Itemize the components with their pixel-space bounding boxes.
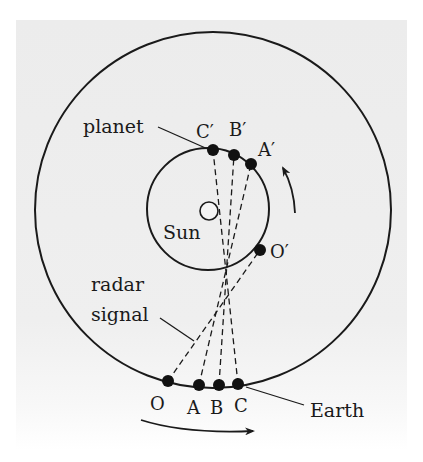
point-O-prime [254,244,266,256]
point-A [193,379,205,391]
label-C: C [234,395,248,416]
point-B-prime [228,149,240,161]
label-B: B [210,397,223,418]
radar-line-B-Bprime [219,155,234,385]
label-A-prime: A′ [257,139,275,160]
label-earth: Earth [310,399,364,421]
label-O-prime: O′ [270,241,289,262]
radar-leader-line [160,318,194,341]
point-O [162,375,174,387]
label-O: O [150,393,165,414]
earth-direction-arrow-icon [141,420,253,432]
point-C [232,378,244,390]
sun-icon [200,202,218,220]
label-B-prime: B′ [229,119,246,140]
planet-points [207,144,266,256]
planet-direction-arrow-icon [283,168,295,213]
point-A-prime [245,158,257,170]
point-B [213,379,225,391]
label-C-prime: C′ [196,121,214,142]
label-A: A [186,397,201,418]
radar-signal-lines [168,150,260,385]
earth-leader-line [246,387,304,405]
orbit-diagram: planet Sun radar signal Earth C′ B′ A′ O… [0,0,423,462]
label-signal: signal [91,303,149,325]
label-radar: radar [91,273,145,295]
point-C-prime [207,144,219,156]
label-planet: planet [83,115,144,137]
label-sun: Sun [163,221,201,243]
